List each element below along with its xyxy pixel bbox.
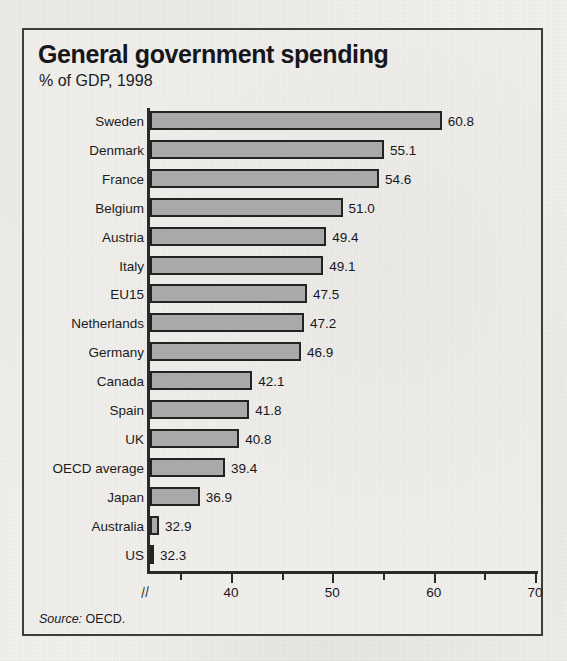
x-tick-major — [535, 574, 537, 583]
category-label: Australia — [26, 515, 144, 538]
bar-row: Germany46.9 — [24, 341, 545, 364]
category-label: Italy — [26, 255, 144, 278]
source-note: Source: OECD. — [39, 612, 125, 626]
bar-row: EU1547.5 — [24, 283, 545, 306]
bar — [150, 227, 326, 246]
chart-frame: General government spending % of GDP, 19… — [22, 28, 543, 636]
bar-value-label: 36.9 — [206, 486, 232, 509]
bar — [150, 516, 159, 535]
x-tick-major — [332, 574, 334, 583]
bar-value-label: 40.8 — [245, 428, 271, 451]
x-tick-minor — [383, 574, 385, 580]
bar-row: US32.3 — [24, 544, 545, 567]
bar-row: Spain41.8 — [24, 399, 545, 422]
bar-row: Canada42.1 — [24, 370, 545, 393]
bar-row: Sweden60.8 — [24, 110, 545, 133]
x-tick-label: 70 — [515, 585, 555, 600]
bar-value-label: 60.8 — [448, 110, 474, 133]
category-label: Spain — [26, 399, 144, 422]
source-label: Source: — [39, 612, 82, 626]
bar — [150, 111, 442, 130]
bar-value-label: 47.2 — [310, 312, 336, 335]
category-label: US — [26, 544, 144, 567]
bar-row: Netherlands47.2 — [24, 312, 545, 335]
bar-value-label: 46.9 — [307, 341, 333, 364]
bar — [150, 342, 301, 361]
bar — [150, 545, 154, 564]
bar-value-label: 32.9 — [165, 515, 191, 538]
bar — [150, 313, 304, 332]
category-label: Sweden — [26, 110, 144, 133]
category-label: Netherlands — [26, 312, 144, 335]
bar-row: Australia32.9 — [24, 515, 545, 538]
bar — [150, 169, 379, 188]
bar — [150, 140, 384, 159]
bar-value-label: 47.5 — [313, 283, 339, 306]
bar-value-label: 41.8 — [255, 399, 281, 422]
bar-value-label: 49.1 — [329, 255, 355, 278]
bar — [150, 198, 343, 217]
x-tick-minor — [282, 574, 284, 580]
bar-row: Italy49.1 — [24, 255, 545, 278]
bar — [150, 284, 307, 303]
bar-value-label: 49.4 — [332, 226, 358, 249]
bar-value-label: 32.3 — [160, 544, 186, 567]
bar-row: Denmark55.1 — [24, 139, 545, 162]
category-label: Belgium — [26, 197, 144, 220]
bar-row: France54.6 — [24, 168, 545, 191]
axis-break-icon: // — [140, 584, 151, 599]
plot-area: Sweden60.8Denmark55.1France54.6Belgium51… — [24, 30, 545, 638]
bar-value-label: 39.4 — [231, 457, 257, 480]
category-label: Japan — [26, 486, 144, 509]
source-value: OECD. — [86, 612, 126, 626]
category-label: OECD average — [26, 457, 144, 480]
bar-value-label: 55.1 — [390, 139, 416, 162]
bar — [150, 487, 200, 506]
bar — [150, 429, 239, 448]
x-tick-label: 40 — [211, 585, 251, 600]
bar — [150, 256, 323, 275]
bar — [150, 371, 252, 390]
bar-row: Austria49.4 — [24, 226, 545, 249]
x-tick-major — [231, 574, 233, 583]
category-label: Denmark — [26, 139, 144, 162]
x-tick-label: 60 — [414, 585, 454, 600]
x-tick-minor — [484, 574, 486, 580]
bar — [150, 458, 225, 477]
x-axis-line — [147, 571, 538, 574]
category-label: France — [26, 168, 144, 191]
category-label: EU15 — [26, 283, 144, 306]
category-label: Austria — [26, 226, 144, 249]
bar-value-label: 42.1 — [258, 370, 284, 393]
bar-value-label: 51.0 — [349, 197, 375, 220]
bar-row: Japan36.9 — [24, 486, 545, 509]
x-tick-label: 50 — [312, 585, 352, 600]
x-tick-minor — [180, 574, 182, 580]
bar-row: UK40.8 — [24, 428, 545, 451]
category-label: Germany — [26, 341, 144, 364]
category-label: Canada — [26, 370, 144, 393]
bar-row: Belgium51.0 — [24, 197, 545, 220]
bar-row: OECD average39.4 — [24, 457, 545, 480]
category-label: UK — [26, 428, 144, 451]
bar-value-label: 54.6 — [385, 168, 411, 191]
bar — [150, 400, 249, 419]
x-tick-major — [434, 574, 436, 583]
